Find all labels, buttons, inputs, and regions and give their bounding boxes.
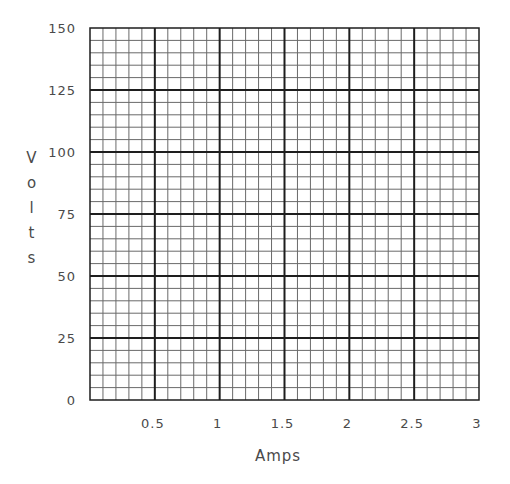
x-axis-ticks: 0.511.522.53 [141, 416, 482, 431]
x-tick-label: 1 [213, 416, 222, 431]
y-axis-label-letter: t [29, 224, 36, 242]
y-tick-label: 100 [48, 145, 76, 160]
y-axis-label-letter: s [28, 249, 37, 267]
y-tick-label: 75 [57, 207, 76, 222]
y-axis-label-letter: l [29, 199, 34, 217]
y-axis-label-letter: V [26, 149, 37, 167]
y-axis-ticks: 0255075100125150 [48, 21, 76, 408]
graph-paper-chart: 0255075100125150 0.511.522.53 Amps Volts [0, 0, 510, 484]
x-tick-label: 3 [472, 416, 481, 431]
x-tick-label: 0.5 [141, 416, 165, 431]
x-tick-label: 1.5 [271, 416, 295, 431]
y-tick-label: 25 [57, 331, 76, 346]
y-tick-label: 150 [48, 21, 76, 36]
x-tick-label: 2 [343, 416, 352, 431]
x-axis-label: Amps [255, 447, 301, 465]
y-axis-label: Volts [26, 149, 37, 267]
major-grid [90, 28, 479, 400]
y-tick-label: 125 [48, 83, 76, 98]
x-tick-label: 2.5 [400, 416, 424, 431]
y-tick-label: 50 [57, 269, 76, 284]
y-tick-label: 0 [67, 393, 76, 408]
y-axis-label-letter: o [27, 174, 37, 192]
